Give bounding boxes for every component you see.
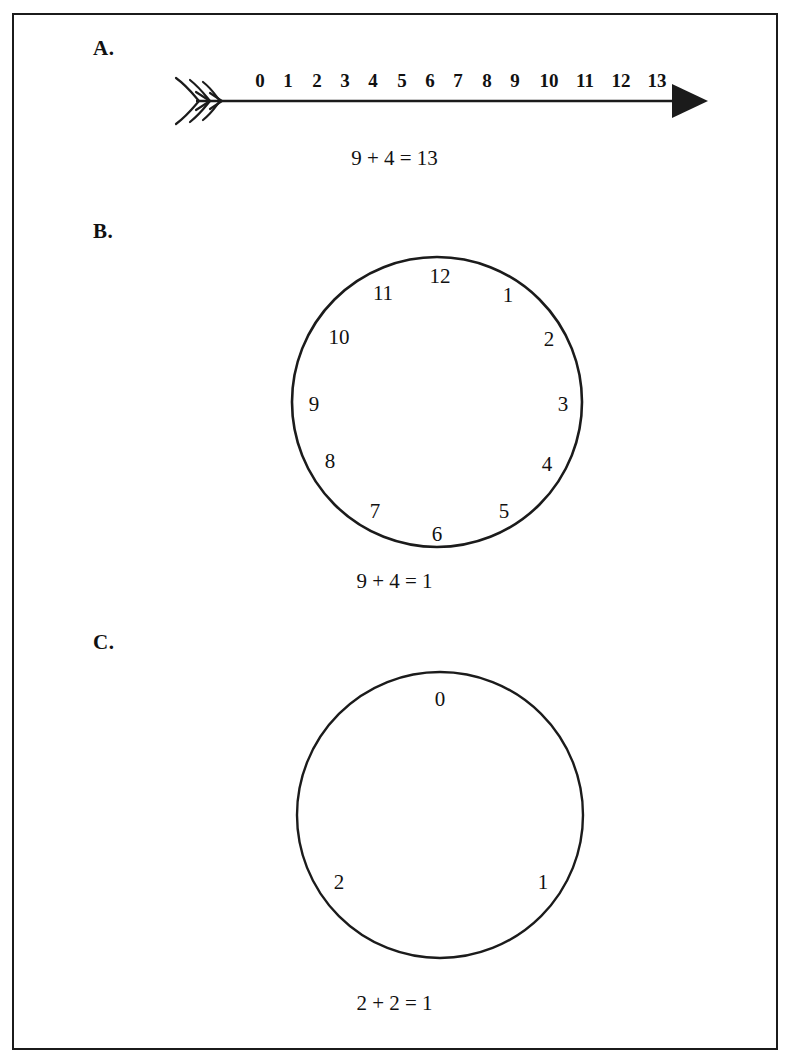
panel-c-letter: C.: [93, 630, 114, 655]
figure-page: A. 0 1 2 3 4 5 6 7: [0, 0, 789, 1064]
clock3-number-2: 2: [334, 870, 345, 895]
clock-circle-mod3-graphic: [0, 0, 789, 1064]
clock3-number-1: 1: [538, 870, 549, 895]
panel-c: C. 0 1 2 2 + 2 = 1: [0, 0, 789, 1064]
panel-c-equation: 2 + 2 = 1: [0, 991, 789, 1016]
clock3-number-0: 0: [435, 687, 446, 712]
